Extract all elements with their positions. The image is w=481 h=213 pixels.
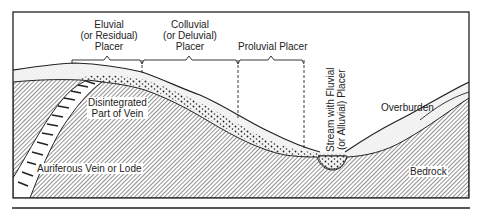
label-disintegrated-vein: Disintegrated Part of Vein bbox=[87, 97, 148, 119]
label-eluvial: Eluvial (or Residual) Placer bbox=[78, 19, 140, 52]
placer-diagram: Eluvial (or Residual) Placer Colluvial (… bbox=[0, 0, 481, 213]
label-overburden: Overburden bbox=[381, 102, 434, 113]
label-colluvial: Colluvial (or Deluvial) Placer bbox=[160, 19, 220, 52]
label-stream: Stream with Fluvial (or Alluvial) Placer bbox=[325, 68, 347, 152]
label-auriferous-vein: Auriferous Vein or Lode bbox=[36, 163, 143, 174]
label-bedrock: Bedrock bbox=[409, 166, 448, 177]
label-proluvial: Proluvial Placer bbox=[238, 41, 306, 52]
bracket-colluvial bbox=[142, 56, 238, 64]
bracket-proluvial bbox=[238, 56, 304, 64]
